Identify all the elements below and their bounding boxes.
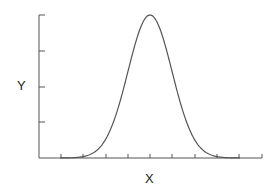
bell-curve-line	[60, 15, 240, 158]
y-axis	[39, 15, 45, 158]
chart-plot	[0, 0, 275, 195]
x-axis-label: X	[145, 171, 154, 186]
y-axis-label: Y	[17, 78, 26, 93]
